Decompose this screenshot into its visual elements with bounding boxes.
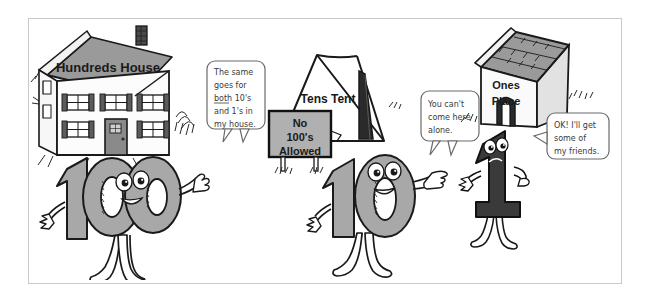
ones-place-label-line2: Place <box>492 95 521 107</box>
sign-line2: 100's <box>286 131 313 143</box>
bubble1-line2: goes for <box>214 81 247 90</box>
hundreds-house: Hundreds House <box>31 26 194 171</box>
bubble1-line3: both 10's <box>214 94 251 103</box>
speech-bubble-tens: You can't come here alone. <box>421 91 479 155</box>
bubble1-line1: The same <box>213 68 253 77</box>
ones-character <box>459 131 529 249</box>
sign-line1: No <box>293 117 308 129</box>
page-frame: Hundreds House <box>28 18 622 284</box>
ones-place-doghouse: Ones Place <box>461 28 593 127</box>
bubble2-line1: You can't <box>427 100 464 109</box>
bush-right <box>175 112 194 135</box>
bubble3-line1: OK! I'll get <box>554 121 596 130</box>
tens-character <box>307 155 447 277</box>
sign-line3: Allowed <box>279 145 321 157</box>
no-hundreds-sign: No 100's Allowed <box>269 111 331 174</box>
bubble3-line2: some of <box>554 134 586 143</box>
hundreds-character <box>40 157 209 280</box>
tens-tent-label: Tens Tent <box>301 92 356 106</box>
bubble1-line4: and 1's in <box>214 107 253 116</box>
bubble3-line3: my friends. <box>554 147 599 156</box>
tent-grass-right <box>389 102 401 109</box>
bubble1-line5: my house. <box>214 120 256 129</box>
bubble2-line3: alone. <box>428 126 453 135</box>
ones-place-label-line1: Ones <box>492 79 520 91</box>
chimney <box>136 26 147 45</box>
hundreds-house-label: Hundreds House <box>56 60 160 75</box>
cartoon-illustration: Hundreds House <box>29 19 618 280</box>
illustration-canvas: Hundreds House <box>0 0 648 305</box>
speech-bubble-hundreds: The same goes for both 10's and 1's in m… <box>207 61 265 142</box>
